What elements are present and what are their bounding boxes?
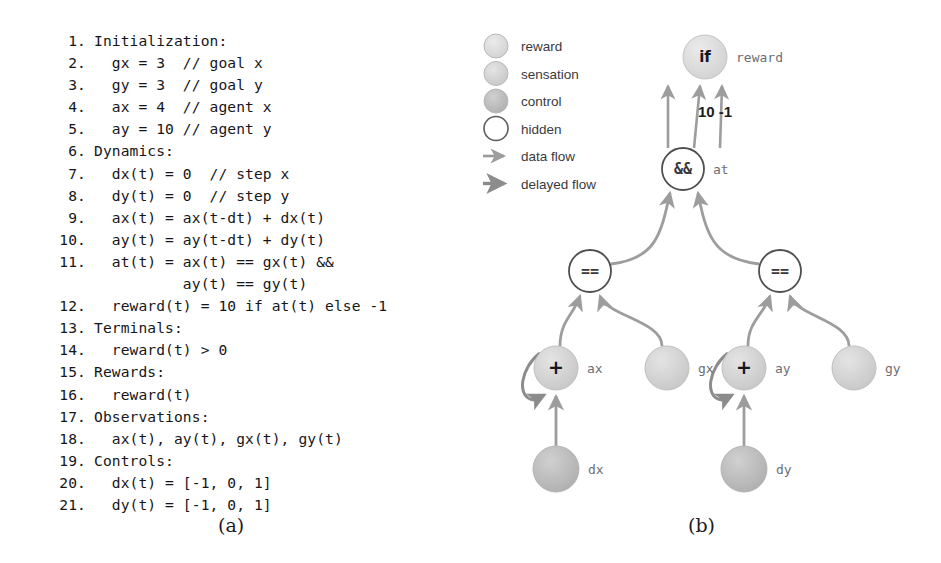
node-label-and: at — [713, 162, 729, 177]
legend-label: delayed flow — [521, 177, 596, 192]
node-label-dy: dy — [776, 462, 792, 477]
code-line-number: 9. — [52, 207, 86, 229]
code-line-text: gy = 3 // goal y — [86, 74, 263, 96]
code-line-number: 17. — [52, 406, 86, 428]
code-line: 5. ay = 10 // agent y — [52, 118, 452, 140]
code-line-text: ay(t) = ay(t-dt) + dy(t) — [86, 229, 325, 251]
code-line-number: 10. — [52, 229, 86, 251]
code-line-text: ax(t) = ax(t-dt) + dx(t) — [86, 207, 325, 229]
code-line-text: reward(t) > 0 — [86, 339, 227, 361]
code-line-text: ax(t), ay(t), gx(t), gy(t) — [86, 428, 343, 450]
code-line: 16. reward(t) — [52, 384, 452, 406]
legend-label: data flow — [521, 149, 575, 164]
legend-swatch-hidden — [484, 117, 508, 141]
legend: rewardsensationcontrolhiddendata flowdel… — [483, 34, 596, 192]
code-line-text: dx(t) = [-1, 0, 1] — [86, 472, 272, 494]
code-line-text: reward(t) = 10 if at(t) else -1 — [86, 295, 387, 317]
node-label-ax: ax — [587, 361, 603, 376]
code-line: 14. reward(t) > 0 — [52, 339, 452, 361]
code-line-number: 21. — [52, 494, 86, 516]
code-line-text: Dynamics: — [86, 140, 174, 162]
caption-b: (b) — [688, 514, 715, 536]
code-line-number — [52, 273, 86, 295]
computation-graph-panel: rewardsensationcontrolhiddendata flowdel… — [470, 16, 941, 506]
code-line: 18. ax(t), ay(t), gx(t), gy(t) — [52, 428, 452, 450]
code-line-text: ay(t) == gy(t) — [86, 273, 307, 295]
legend-label: reward — [521, 39, 562, 54]
edge-gy-to-eq2 — [790, 296, 849, 346]
code-line: 11. at(t) = ax(t) == gx(t) && — [52, 251, 452, 273]
node-glyph-ax: + — [548, 356, 564, 378]
caption-a: (a) — [218, 514, 244, 536]
node-glyph-eq2: == — [771, 262, 789, 280]
code-line: 8. dy(t) = 0 // step y — [52, 185, 452, 207]
code-line-text: Terminals: — [86, 317, 183, 339]
code-line-number: 6. — [52, 140, 86, 162]
code-line-number: 1. — [52, 30, 86, 52]
node-label-gx: gx — [698, 361, 714, 376]
code-line: 9. ax(t) = ax(t-dt) + dx(t) — [52, 207, 452, 229]
code-line-number: 4. — [52, 96, 86, 118]
legend-swatch-reward — [484, 34, 508, 58]
node-gy[interactable] — [832, 346, 876, 390]
node-label-ay: ay — [775, 361, 791, 376]
code-line: 10. ay(t) = ay(t-dt) + dy(t) — [52, 229, 452, 251]
code-line: ay(t) == gy(t) — [52, 273, 452, 295]
code-line: 7. dx(t) = 0 // step x — [52, 163, 452, 185]
code-line-text: ax = 4 // agent x — [86, 96, 272, 118]
node-dy[interactable] — [721, 446, 767, 492]
code-line-text: Initialization: — [86, 30, 227, 52]
node-glyph-and: && — [674, 160, 693, 178]
node-dx[interactable] — [533, 446, 579, 492]
code-line-number: 7. — [52, 163, 86, 185]
node-gx[interactable] — [645, 346, 689, 390]
node-glyph-ay: + — [736, 356, 752, 378]
code-line-text: dy(t) = 0 // step y — [86, 185, 290, 207]
code-line-text: Rewards: — [86, 361, 165, 383]
code-line: 12. reward(t) = 10 if at(t) else -1 — [52, 295, 452, 317]
code-line-text: at(t) = ax(t) == gx(t) && — [86, 251, 334, 273]
code-line-number: 5. — [52, 118, 86, 140]
code-line: 13.Terminals: — [52, 317, 452, 339]
edge-ax-to-eq1 — [560, 296, 580, 346]
code-line-text: ay = 10 // agent y — [86, 118, 272, 140]
code-line-number: 18. — [52, 428, 86, 450]
edge-ay-to-eq2 — [748, 296, 770, 346]
edge-weight-label: 10 -1 — [698, 103, 732, 120]
code-line-number: 13. — [52, 317, 86, 339]
code-line-number: 11. — [52, 251, 86, 273]
code-line-text: Observations: — [86, 406, 210, 428]
node-glyph-eq1: == — [581, 262, 599, 280]
edge-eq2-to-and — [698, 193, 759, 264]
code-line: 19.Controls: — [52, 450, 452, 472]
edge-eq1-to-and — [611, 193, 670, 264]
legend-swatch-control — [484, 89, 508, 113]
pseudo-code-panel: 1.Initialization:2. gx = 3 // goal x3. g… — [52, 30, 452, 516]
code-line-number: 15. — [52, 361, 86, 383]
code-line-text: Controls: — [86, 450, 174, 472]
figure-container: 1.Initialization:2. gx = 3 // goal x3. g… — [0, 0, 941, 563]
code-line: 2. gx = 3 // goal x — [52, 52, 452, 74]
legend-swatch-sensation — [484, 62, 508, 86]
code-line-number: 8. — [52, 185, 86, 207]
code-line: 1.Initialization: — [52, 30, 452, 52]
legend-label: control — [521, 94, 562, 109]
code-line: 17.Observations: — [52, 406, 452, 428]
code-line-number: 19. — [52, 450, 86, 472]
code-line-text: reward(t) — [86, 384, 192, 406]
code-line: 3. gy = 3 // goal y — [52, 74, 452, 96]
code-line-number: 16. — [52, 384, 86, 406]
code-line: 21. dy(t) = [-1, 0, 1] — [52, 494, 452, 516]
node-label-dx: dx — [588, 462, 604, 477]
code-line-text: dx(t) = 0 // step x — [86, 163, 290, 185]
code-line-number: 2. — [52, 52, 86, 74]
edge-gx-to-eq1 — [600, 296, 662, 346]
code-line-number: 12. — [52, 295, 86, 317]
code-line-number: 3. — [52, 74, 86, 96]
code-line: 20. dx(t) = [-1, 0, 1] — [52, 472, 452, 494]
code-line-number: 20. — [52, 472, 86, 494]
code-line: 6.Dynamics: — [52, 140, 452, 162]
code-line: 15.Rewards: — [52, 361, 452, 383]
graph-svg: rewardsensationcontrolhiddendata flowdel… — [470, 16, 941, 506]
code-line-number: 14. — [52, 339, 86, 361]
